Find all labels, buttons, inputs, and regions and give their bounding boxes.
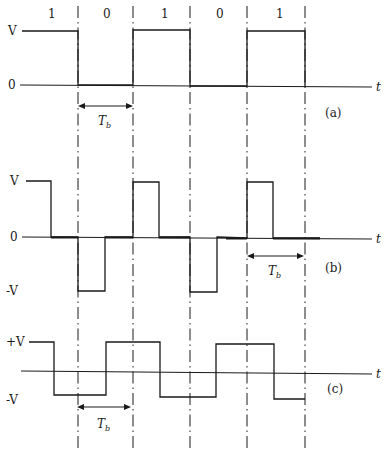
panel-b: t V 0 -V Tb (b)	[6, 174, 381, 298]
level-label-v: V	[7, 24, 17, 38]
line-coding-diagram: 1 0 1 0 1 t V 0 Tb (a) t V 0 -V Tb	[0, 0, 389, 454]
panel-label-b: (b)	[325, 261, 342, 275]
level-label-neg-v: -V	[6, 393, 18, 407]
tb-label: Tb	[97, 417, 110, 433]
level-label-0: 0	[8, 78, 16, 92]
bit-boundary-lines	[78, 6, 305, 452]
panel-c: t +V -V Tb (c)	[6, 335, 381, 433]
bit-labels: 1 0 1 0 1	[48, 7, 284, 21]
level-label-v: V	[9, 174, 19, 188]
bit-label: 1	[276, 7, 284, 21]
waveform-c	[29, 342, 305, 399]
bit-label: 1	[48, 7, 56, 21]
tb-label: Tb	[98, 114, 111, 130]
bit-label: 1	[161, 7, 169, 21]
bit-label: 0	[103, 7, 111, 21]
axis-label-t: t	[376, 367, 381, 381]
waveform-a	[22, 30, 305, 87]
level-label-neg-v: -V	[6, 284, 18, 298]
panel-a: t V 0 Tb (a)	[7, 24, 381, 130]
level-label-pos-v: +V	[6, 335, 25, 349]
axis-label-t: t	[376, 232, 381, 246]
axis-label-t: t	[376, 80, 381, 94]
panel-label-c: (c)	[327, 382, 343, 396]
level-label-0: 0	[10, 230, 18, 244]
time-axis	[21, 371, 372, 374]
panel-label-a: (a)	[325, 106, 342, 120]
bit-label: 0	[216, 7, 224, 21]
tb-label: Tb	[268, 264, 281, 280]
